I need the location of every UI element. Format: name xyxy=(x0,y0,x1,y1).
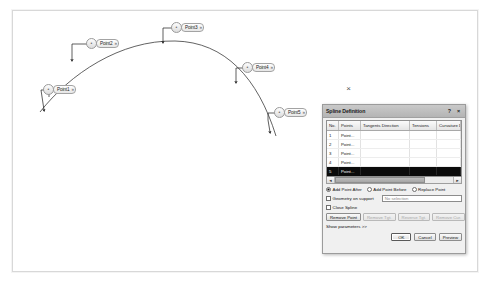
close-icon[interactable]: × xyxy=(454,107,463,116)
checkbox-close-spline[interactable]: Close Spline xyxy=(326,205,357,210)
radio-label: Add Point After xyxy=(333,187,362,192)
remove-curvature-button: Remove Cur. xyxy=(432,213,465,221)
close-spline-row: Close Spline xyxy=(326,205,462,210)
cell-point[interactable]: Point... xyxy=(339,149,361,158)
ok-button[interactable]: OK xyxy=(391,233,411,241)
point-callout-4[interactable]: • Point4 » xyxy=(242,62,275,73)
cancel-button[interactable]: Cancel xyxy=(414,233,435,241)
cell-tension[interactable] xyxy=(410,140,437,149)
table-row[interactable]: 4 Point... xyxy=(327,158,461,167)
point-label: Point2 xyxy=(100,41,113,46)
cell-point[interactable]: Point... xyxy=(339,158,361,167)
cell-curvature[interactable] xyxy=(437,158,461,167)
col-curvature[interactable]: Curvature Direc xyxy=(437,121,461,131)
points-table[interactable]: No. Points Tangents Direction Tensions C… xyxy=(327,121,461,176)
dialog-title: Spline Definition xyxy=(326,108,445,114)
col-no[interactable]: No. xyxy=(327,121,339,131)
col-tensions[interactable]: Tensions xyxy=(410,121,437,131)
cell-curvature[interactable] xyxy=(437,149,461,158)
radio-add-point-after[interactable]: Add Point After xyxy=(326,187,362,192)
cell-no: 4 xyxy=(327,158,339,167)
cell-tangent[interactable] xyxy=(361,158,410,167)
chevron-right-icon[interactable]: » xyxy=(199,25,202,30)
scroll-right-icon[interactable]: ► xyxy=(453,177,461,183)
cursor-x-marker: × xyxy=(344,84,353,93)
checkbox-label: Geometry on support xyxy=(333,196,374,201)
point-label: Point1 xyxy=(57,87,70,92)
chevron-right-icon[interactable]: » xyxy=(302,110,305,115)
radio-label: Add Point Before xyxy=(373,187,406,192)
insert-mode-row: Add Point After Add Point Before Replace… xyxy=(326,187,462,192)
point-tag-body[interactable]: Point2 » xyxy=(96,39,119,48)
chevron-right-icon[interactable]: » xyxy=(71,87,74,92)
scroll-left-icon[interactable]: ◄ xyxy=(327,177,335,183)
support-selection-field[interactable]: No selection xyxy=(382,195,462,202)
preview-button[interactable]: Preview xyxy=(439,233,462,241)
radio-icon[interactable] xyxy=(412,187,417,192)
cell-point[interactable]: Point... xyxy=(339,140,361,149)
table-row-selected[interactable]: 5 Point... xyxy=(327,167,461,176)
cell-curvature[interactable] xyxy=(437,140,461,149)
show-parameters-link[interactable]: Show parameters >> xyxy=(326,224,462,229)
point-tag-body[interactable]: Point1 » xyxy=(53,85,76,94)
radio-label: Replace Point xyxy=(418,187,445,192)
dialog-titlebar[interactable]: Spline Definition ? × xyxy=(323,105,465,118)
cell-no: 5 xyxy=(327,167,339,176)
cell-tension[interactable] xyxy=(410,149,437,158)
checkbox-geometry-on-support[interactable]: Geometry on support xyxy=(326,196,374,201)
cell-tension[interactable] xyxy=(410,167,437,176)
cell-tangent[interactable] xyxy=(361,149,410,158)
cell-point[interactable]: Point... xyxy=(339,131,361,140)
point-actions-row: Remove Point Remove Tgt. Reverse Tgt. Re… xyxy=(326,213,462,221)
cell-tangent[interactable] xyxy=(361,167,410,176)
cell-no: 1 xyxy=(327,131,339,140)
reverse-tangent-button: Reverse Tgt. xyxy=(398,213,431,221)
scrollbar-thumb[interactable] xyxy=(335,177,425,183)
cell-tension[interactable] xyxy=(410,131,437,140)
col-points[interactable]: Points xyxy=(339,121,361,131)
cell-tangent[interactable] xyxy=(361,140,410,149)
point-callout-3[interactable]: • Point3 » xyxy=(171,22,204,33)
cell-no: 2 xyxy=(327,140,339,149)
remove-tangent-button: Remove Tgt. xyxy=(363,213,396,221)
table-horizontal-scrollbar[interactable]: ◄ ► xyxy=(326,177,462,184)
cell-point[interactable]: Point... xyxy=(339,167,361,176)
scrollbar-track[interactable] xyxy=(335,177,453,183)
points-table-wrapper: No. Points Tangents Direction Tensions C… xyxy=(326,120,462,177)
radio-icon[interactable] xyxy=(326,187,331,192)
point-label: Point5 xyxy=(288,110,301,115)
point-tag-body[interactable]: Point5 » xyxy=(284,108,307,117)
chevron-right-icon[interactable]: » xyxy=(114,41,117,46)
dialog-footer: OK Cancel Preview xyxy=(326,233,462,241)
spline-definition-dialog: Spline Definition ? × No. Points Tangent… xyxy=(322,104,466,254)
point-tag-body[interactable]: Point4 » xyxy=(252,63,275,72)
point-tag-body[interactable]: Point3 » xyxy=(181,23,204,32)
help-icon[interactable]: ? xyxy=(445,107,454,116)
cell-no: 3 xyxy=(327,149,339,158)
cell-curvature[interactable] xyxy=(437,167,461,176)
geometry-on-support-row: Geometry on support No selection xyxy=(326,195,462,202)
radio-icon[interactable] xyxy=(367,187,372,192)
point-label: Point3 xyxy=(185,25,198,30)
radio-replace-point[interactable]: Replace Point xyxy=(412,187,446,192)
chevron-right-icon[interactable]: » xyxy=(270,65,273,70)
checkbox-icon[interactable] xyxy=(326,196,331,201)
table-row[interactable]: 2 Point... xyxy=(327,140,461,149)
dialog-body: No. Points Tangents Direction Tensions C… xyxy=(323,118,465,244)
radio-add-point-before[interactable]: Add Point Before xyxy=(367,187,407,192)
screen: • Point1 » • Point2 » • Point3 » • Point… xyxy=(0,0,493,285)
table-row[interactable]: 1 Point... xyxy=(327,131,461,140)
col-tangents[interactable]: Tangents Direction xyxy=(361,121,410,131)
table-header-row: No. Points Tangents Direction Tensions C… xyxy=(327,121,461,131)
remove-point-button[interactable]: Remove Point xyxy=(326,213,361,221)
point-callout-2[interactable]: • Point2 » xyxy=(86,38,119,49)
checkbox-label: Close Spline xyxy=(333,205,358,210)
cell-tangent[interactable] xyxy=(361,131,410,140)
table-row[interactable]: 3 Point... xyxy=(327,149,461,158)
cell-tension[interactable] xyxy=(410,158,437,167)
point-callout-5[interactable]: • Point5 » xyxy=(274,107,307,118)
cell-curvature[interactable] xyxy=(437,131,461,140)
checkbox-icon[interactable] xyxy=(326,205,331,210)
point-callout-1[interactable]: • Point1 » xyxy=(43,84,76,95)
point-label: Point4 xyxy=(256,65,269,70)
